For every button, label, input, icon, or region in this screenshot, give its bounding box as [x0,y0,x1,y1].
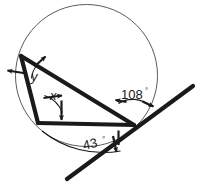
triangle-side-base [38,123,134,125]
label-angle-43: 43 [81,135,98,153]
geometry-canvas: y x 108 ° 43 ° [0,0,198,183]
geometry-figure: y x 108 ° 43 ° [0,0,198,183]
angle-y-arrow-to-chord [35,57,46,67]
label-angle-108-degree-symbol: ° [145,86,148,95]
label-angle-y: y [30,69,39,84]
label-angle-x-value: x [49,88,57,103]
label-angle-43-degree-symbol: ° [101,134,106,143]
label-angle-108: 108 [121,87,143,102]
